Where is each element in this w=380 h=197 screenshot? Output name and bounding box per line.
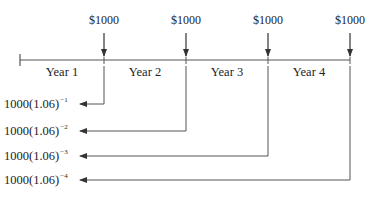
discount-path-year-3 [80,66,268,156]
present-value-3: 1000(1.06)−3 [4,150,68,163]
cash-flow-label-1: $1000 [89,14,119,26]
present-value-4: 1000(1.06)−4 [4,174,68,187]
present-value-2: 1000(1.06)−2 [4,125,68,138]
cash-flow-label-3: $1000 [253,14,283,26]
discount-paths [80,66,350,180]
period-label-year-1: Year 1 [46,66,78,79]
period-label-year-2: Year 2 [129,66,161,79]
present-value-1: 1000(1.06)−1 [4,98,68,111]
period-label-year-4: Year 4 [293,66,325,79]
discount-path-year-4 [80,66,350,180]
cash-flow-label-4: $1000 [335,14,365,26]
cash-flow-arrows [104,33,350,56]
cash-flow-label-2: $1000 [171,14,201,26]
discount-path-year-1 [80,66,104,104]
period-label-year-3: Year 3 [211,66,243,79]
